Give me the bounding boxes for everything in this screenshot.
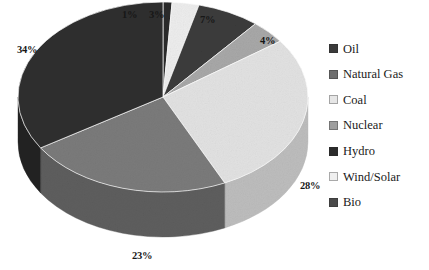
legend-label: Nuclear (343, 119, 383, 132)
pie-label-nuclear: 4% (260, 35, 275, 46)
legend-item-oil[interactable]: Oil (329, 36, 429, 62)
legend-item-natural-gas[interactable]: Natural Gas (329, 62, 429, 88)
legend-label: Coal (343, 94, 367, 107)
pie-label-oil: 34% (17, 44, 37, 55)
legend-swatch-icon (329, 172, 338, 181)
legend-item-hydro[interactable]: Hydro (329, 138, 429, 164)
pie-label-bio: 7% (200, 14, 215, 25)
legend-label: Oil (343, 43, 359, 56)
legend-swatch-icon (329, 44, 338, 53)
legend-label: Hydro (343, 145, 375, 158)
pie-label-hydro: 1% (122, 9, 137, 20)
legend-swatch-icon (329, 121, 338, 130)
legend-item-wind-solar[interactable]: Wind/Solar (329, 164, 429, 190)
pie-label-natural-gas: 23% (132, 250, 152, 261)
chart-legend: OilNatural GasCoalNuclearHydroWind/Solar… (329, 36, 429, 215)
legend-item-bio[interactable]: Bio (329, 190, 429, 216)
legend-swatch-icon (329, 70, 338, 79)
legend-swatch-icon (329, 198, 338, 207)
legend-label: Wind/Solar (343, 171, 400, 184)
legend-swatch-icon (329, 147, 338, 156)
pie-label-wind-solar: 3% (149, 9, 164, 20)
legend-label: Bio (343, 196, 361, 209)
pie-label-coal: 28% (300, 180, 320, 191)
legend-item-coal[interactable]: Coal (329, 87, 429, 113)
pie-chart-figure: 1%3%7%4%28%23%34% OilNatural GasCoalNucl… (0, 0, 429, 270)
legend-label: Natural Gas (343, 68, 403, 81)
legend-item-nuclear[interactable]: Nuclear (329, 113, 429, 139)
pie-top-faces (18, 2, 308, 192)
legend-swatch-icon (329, 95, 338, 104)
